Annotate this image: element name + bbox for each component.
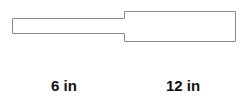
wide-section-label: 12 in (166, 78, 200, 93)
narrow-section-label: 6 in (51, 78, 77, 93)
stepped-pipe-diagram (0, 0, 242, 96)
pipe-outline (13, 12, 236, 42)
